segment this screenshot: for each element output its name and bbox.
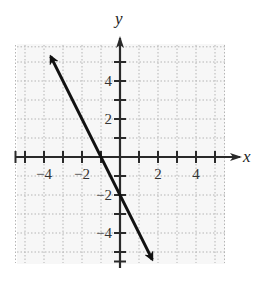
y-axis-label: y (113, 9, 123, 28)
y-tick-label: 4 (105, 73, 113, 89)
graph: −4−22442−2−4 x y (0, 0, 271, 282)
x-tick-label: −2 (74, 166, 90, 182)
x-tick-label: 2 (154, 166, 162, 182)
x-tick-label: −4 (36, 166, 52, 182)
x-tick-label: 4 (192, 166, 200, 182)
y-tick-label: 2 (105, 111, 113, 127)
y-tick-label: −2 (96, 187, 112, 203)
x-axis-label: x (242, 147, 251, 166)
y-tick-label: −4 (96, 225, 112, 241)
